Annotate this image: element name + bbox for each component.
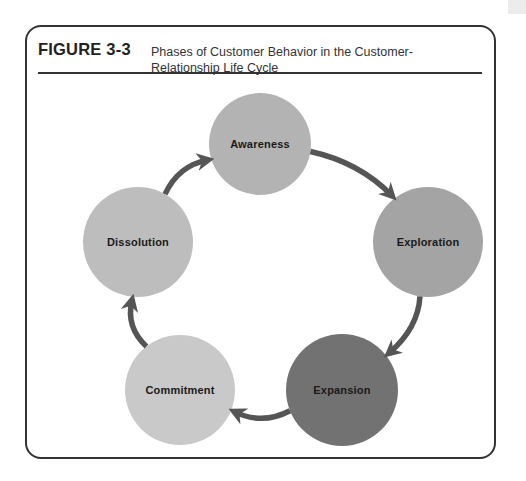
arrow-awareness-to-exploration [310,152,391,196]
arrow-commitment-to-dissolution [130,301,146,347]
node-label-awareness: Awareness [230,138,290,150]
node-label-dissolution: Dissolution [107,236,169,248]
arrow-expansion-to-commitment [235,411,290,419]
node-label-expansion: Expansion [313,384,370,396]
arrow-exploration-to-expansion [389,296,420,353]
node-label-commitment: Commitment [145,384,214,396]
node-label-exploration: Exploration [397,236,460,248]
arrow-dissolution-to-awareness [165,160,207,194]
